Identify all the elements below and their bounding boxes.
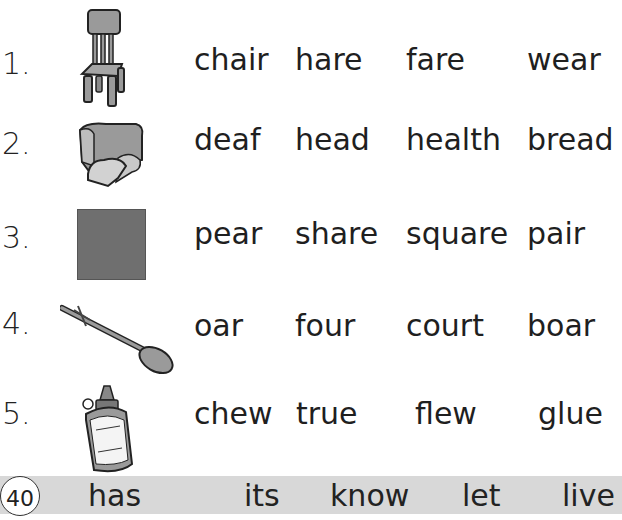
word-option[interactable]: hare <box>295 42 363 77</box>
page-number: 40 <box>0 476 40 516</box>
question-number: 4. <box>2 306 31 341</box>
word-option[interactable]: pair <box>527 216 585 251</box>
sight-word: its <box>244 478 280 513</box>
word-option[interactable]: bread <box>527 122 614 157</box>
word-option[interactable]: head <box>295 122 370 157</box>
sight-word: has <box>88 478 141 513</box>
word-option[interactable]: fare <box>406 42 465 77</box>
sight-word: live <box>562 478 615 513</box>
word-option[interactable]: glue <box>538 396 603 431</box>
question-row-4: 4. oar four court boar <box>0 300 622 390</box>
question-number: 2. <box>2 126 31 161</box>
word-option[interactable]: true <box>296 396 358 431</box>
question-row-5: 5. chew true flew glue <box>0 380 622 470</box>
word-option[interactable]: deaf <box>194 122 260 157</box>
word-option[interactable]: wear <box>527 42 601 77</box>
question-row-3: 3. pear share square pair <box>0 200 622 290</box>
sight-word: let <box>462 478 501 513</box>
word-option[interactable]: oar <box>194 308 243 343</box>
question-row-2: 2. deaf head health bread <box>0 100 622 190</box>
square-shape <box>77 209 187 280</box>
word-option[interactable]: share <box>295 216 378 251</box>
question-number: 1. <box>2 46 31 81</box>
bread-icon <box>76 120 186 196</box>
oar-icon <box>60 304 170 384</box>
glue-bottle-icon <box>80 384 190 478</box>
word-option[interactable]: health <box>406 122 501 157</box>
word-option[interactable]: pear <box>194 216 262 251</box>
question-row-1: 1. chair hare fare wear <box>0 0 622 90</box>
question-number: 5. <box>2 396 31 431</box>
chair-icon <box>78 8 188 112</box>
question-number: 3. <box>2 220 31 255</box>
word-option[interactable]: court <box>406 308 484 343</box>
word-option[interactable]: chew <box>194 396 273 431</box>
sight-word: know <box>330 478 409 513</box>
word-option[interactable]: flew <box>415 396 477 431</box>
word-option[interactable]: chair <box>194 42 269 77</box>
word-option[interactable]: four <box>295 308 355 343</box>
word-option[interactable]: boar <box>527 308 595 343</box>
word-option[interactable]: square <box>406 216 508 251</box>
